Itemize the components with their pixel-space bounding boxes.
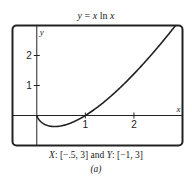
x-tick-label: 1 [83, 119, 89, 130]
x-tick-label: 2 [131, 119, 137, 130]
caption-x-range: : [−.5, 3] and [55, 150, 107, 160]
curve-x-ln-x [37, 26, 176, 127]
x-axis-label: x [176, 104, 181, 114]
y-tick-label: 1 [26, 80, 32, 91]
y-axis-label: y [39, 27, 44, 37]
y-tick-label: 2 [26, 50, 32, 61]
window-caption: X: [−.5, 3] and Y: [−1, 3] [0, 150, 192, 160]
caption-y-range: : [−1, 3] [112, 150, 143, 160]
figure-sublabel: (a) [0, 164, 192, 174]
